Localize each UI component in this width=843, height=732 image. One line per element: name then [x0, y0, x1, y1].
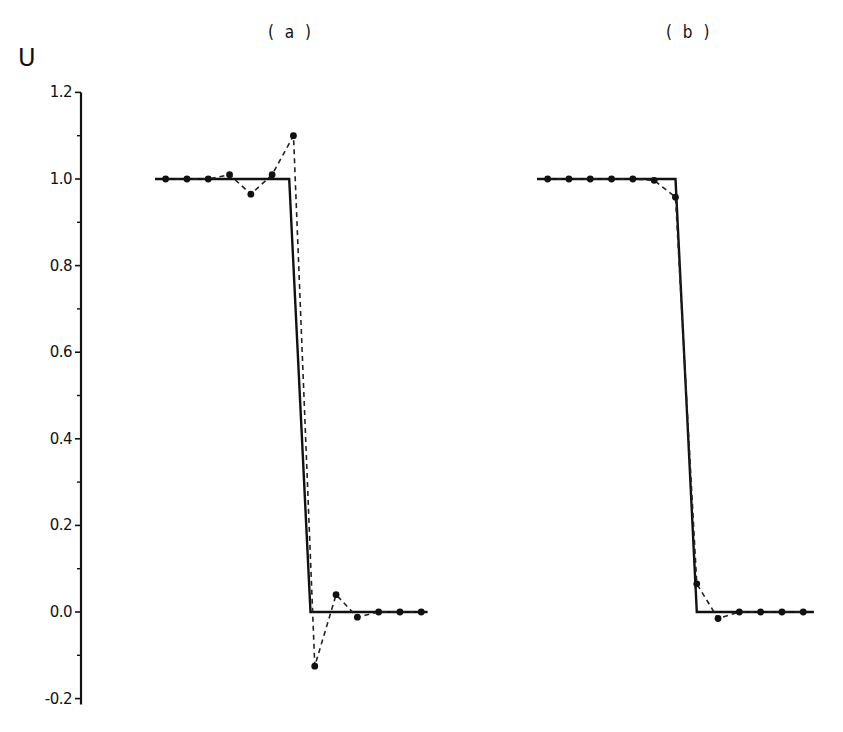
- data-point-marker: [311, 663, 318, 670]
- data-point-marker: [375, 609, 382, 616]
- exact-solution-line: [537, 179, 814, 612]
- data-point-marker: [693, 580, 700, 587]
- data-point-marker: [779, 609, 786, 616]
- data-point-marker: [608, 176, 615, 183]
- data-point-marker: [629, 176, 636, 183]
- y-axis-label: U: [18, 44, 36, 72]
- data-point-marker: [205, 176, 212, 183]
- data-point-marker: [184, 176, 191, 183]
- figure: ( a ) ( b ) U -0.20.00.20.40.60.81.01.2: [0, 0, 843, 732]
- data-point-marker: [715, 615, 722, 622]
- data-point-marker: [247, 191, 254, 198]
- data-point-marker: [354, 614, 361, 621]
- numerical-solution-line: [166, 136, 422, 666]
- data-point-marker: [397, 609, 404, 616]
- data-point-marker: [226, 171, 233, 178]
- y-tick-label: 0.8: [50, 257, 72, 275]
- data-point-marker: [162, 176, 169, 183]
- data-point-marker: [544, 176, 551, 183]
- numerical-solution-line: [548, 179, 804, 619]
- panel-b-title: ( b ): [666, 22, 712, 42]
- y-axis: -0.20.00.20.40.60.81.01.2: [45, 83, 81, 707]
- data-point-marker: [587, 176, 594, 183]
- y-tick-label: 0.2: [50, 516, 72, 534]
- y-tick-label: 1.0: [50, 170, 72, 188]
- y-tick-label: -0.2: [45, 690, 72, 708]
- data-point-marker: [333, 591, 340, 598]
- data-point-marker: [566, 176, 573, 183]
- data-point-marker: [800, 609, 807, 616]
- panel-a: [155, 132, 428, 669]
- data-point-marker: [418, 609, 425, 616]
- data-point-marker: [269, 171, 276, 178]
- data-point-marker: [290, 132, 297, 139]
- exact-solution-line: [155, 179, 428, 612]
- data-point-marker: [672, 194, 679, 201]
- data-point-marker: [757, 609, 764, 616]
- y-tick-label: 1.2: [50, 83, 72, 101]
- data-point-marker: [736, 609, 743, 616]
- y-tick-label: 0.4: [50, 430, 72, 448]
- panel-a-title: ( a ): [268, 22, 314, 42]
- y-tick-label: 0.6: [50, 343, 72, 361]
- plot-area: -0.20.00.20.40.60.81.01.2: [0, 0, 843, 732]
- data-point-marker: [651, 177, 658, 184]
- panel-b: [537, 176, 814, 622]
- y-tick-label: 0.0: [50, 603, 72, 621]
